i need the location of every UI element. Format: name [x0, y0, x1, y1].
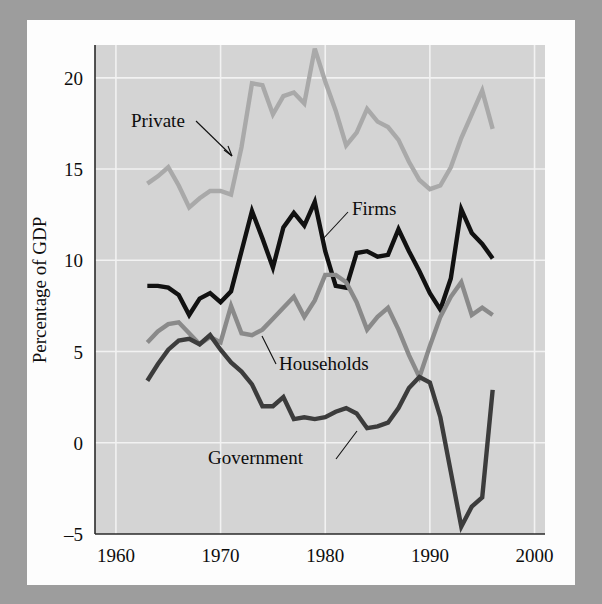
- y-tick-5: 5: [74, 342, 84, 363]
- x-tick-2000: 2000: [516, 545, 554, 566]
- x-tick-1970: 1970: [202, 545, 240, 566]
- x-tick-labels: 19601970198019902000: [97, 545, 554, 566]
- figure-frame: –505101520 19601970198019902000 Percenta…: [0, 0, 602, 604]
- series-label-households: Households: [279, 353, 369, 374]
- x-tick-1960: 1960: [97, 545, 135, 566]
- y-tick-10: 10: [64, 250, 83, 271]
- y-tick-20: 20: [64, 68, 83, 89]
- series-label-government: Government: [208, 447, 304, 468]
- y-tick-15: 15: [64, 159, 83, 180]
- y-axis-title: Percentage of GDP: [29, 217, 50, 364]
- x-tick-1990: 1990: [411, 545, 449, 566]
- y-tick-labels: –505101520: [63, 68, 83, 545]
- series-label-private: Private: [131, 110, 185, 131]
- line-chart: –505101520 19601970198019902000 Percenta…: [0, 0, 602, 604]
- series-label-firms: Firms: [352, 198, 396, 219]
- y-tick-0: 0: [74, 433, 84, 454]
- y-tick--5: –5: [63, 524, 83, 545]
- x-tick-1980: 1980: [306, 545, 344, 566]
